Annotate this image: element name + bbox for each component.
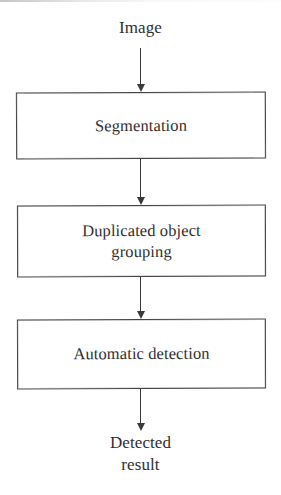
- arrow-head-down-icon: [137, 84, 145, 92]
- process-box-segmentation-line-1: Segmentation: [95, 115, 187, 137]
- process-box-segmentation: Segmentation: [16, 91, 266, 159]
- arrow-head-down-icon: [137, 423, 145, 431]
- arrow-shaft: [140, 159, 141, 197]
- flow-output-label-detected-result: Detected result: [0, 432, 281, 476]
- process-box-duplicated-object-grouping-text: Duplicated object grouping: [76, 219, 207, 262]
- arrow-grouping-to-automatic-detection: [140, 277, 141, 319]
- arrow-automatic-detection-to-detected-result: [140, 389, 141, 431]
- scan-edge-artifact: [0, 0, 281, 2]
- process-box-segmentation-text: Segmentation: [89, 115, 193, 137]
- arrow-shaft: [140, 48, 141, 84]
- arrow-head-down-icon: [137, 311, 145, 319]
- process-box-automatic-detection-line-1: Automatic detection: [73, 343, 209, 365]
- flow-output-label-line-2: result: [0, 454, 281, 476]
- flow-output-label-line-1: Detected: [0, 432, 281, 454]
- process-box-duplicated-object-grouping: Duplicated object grouping: [17, 205, 266, 278]
- arrow-shaft: [140, 277, 141, 311]
- arrow-image-to-segmentation: [140, 48, 141, 92]
- flow-input-label-image-line-1: Image: [0, 17, 281, 39]
- arrow-segmentation-to-grouping: [140, 159, 141, 205]
- process-box-duplicated-object-grouping-line-2: grouping: [82, 241, 201, 263]
- arrow-shaft: [140, 389, 141, 423]
- process-box-automatic-detection: Automatic detection: [17, 319, 266, 390]
- arrow-head-down-icon: [137, 197, 145, 205]
- process-box-duplicated-object-grouping-line-1: Duplicated object: [82, 219, 201, 241]
- flowchart-diagram: Image Segmentation Duplicated object gro…: [0, 0, 281, 495]
- flow-input-label-image: Image: [0, 17, 281, 39]
- process-box-automatic-detection-text: Automatic detection: [67, 343, 215, 365]
